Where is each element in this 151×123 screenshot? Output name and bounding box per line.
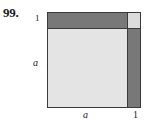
figure-page: 99. 1 a a 1 [0,0,151,123]
region-top-band [48,13,127,29]
axis-label-left-top: 1 [35,14,40,23]
problem-number: 99. [3,6,19,20]
square-diagram [47,12,141,108]
axis-label-bottom-right: 1 [133,110,138,120]
axis-label-bottom-left: a [83,110,88,120]
axis-label-left-side: a [33,58,38,68]
region-right-strip [127,29,140,107]
region-corner-unit-square [127,13,140,29]
region-a-squared [48,29,127,107]
